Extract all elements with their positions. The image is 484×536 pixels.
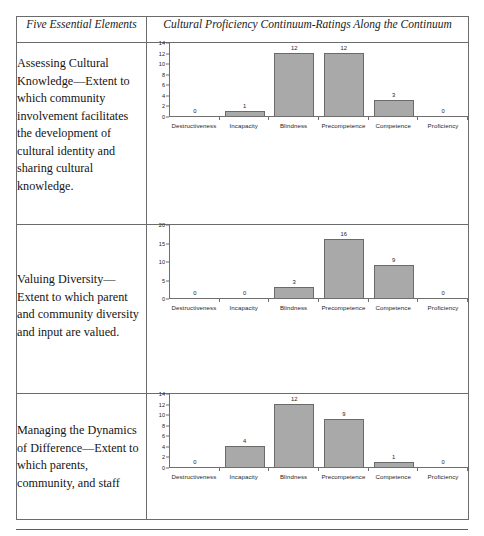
y-axis-tick-label: 4 (162, 93, 165, 99)
x-axis-tick-mark (319, 298, 369, 302)
chart-plot-area: 024681012140412910 (147, 394, 468, 468)
bar-value-label: 1 (392, 454, 395, 461)
table-row: Valuing Diversity—Extent to which parent… (17, 225, 469, 394)
chart-plot-area: 0246810121401121230 (147, 43, 468, 117)
bar-slot: 0 (170, 225, 220, 298)
x-axis-tick-mark (418, 467, 468, 471)
y-axis-tick-label: 2 (162, 103, 165, 109)
y-axis-tick-label: 5 (162, 278, 165, 284)
bar-slot: 0 (170, 394, 220, 467)
y-axis-tick-label: 6 (162, 82, 165, 88)
bar (374, 265, 414, 298)
y-axis-tick-label: 15 (159, 241, 165, 247)
y-axis-tick-label: 0 (162, 296, 165, 302)
x-axis-tick-mark (269, 298, 319, 302)
bar (374, 100, 414, 116)
x-axis-tick-mark (170, 467, 220, 471)
x-axis-labels: DestructivenessIncapacityBlindnessPrecom… (169, 122, 468, 129)
x-axis-category-label: Incapacity (219, 304, 269, 311)
bar-value-label: 0 (442, 459, 445, 466)
bar-series: 0412910 (170, 394, 468, 467)
table-row: Managing the Dynamics of Difference—Exte… (17, 394, 469, 520)
plot-canvas: 0412910 (169, 394, 468, 468)
chart-cell-valuing-diversity: 051015200031690DestructivenessIncapacity… (147, 225, 469, 394)
x-axis-tick-mark (220, 116, 270, 120)
x-axis-tick-marks (170, 116, 468, 120)
bar-value-label: 0 (193, 108, 196, 115)
x-axis-tick-mark (319, 116, 369, 120)
bar-slot: 9 (369, 225, 419, 298)
bar-slot: 9 (319, 394, 369, 467)
bar-chart-assessing-cultural-knowledge: 0246810121401121230DestructivenessIncapa… (147, 43, 468, 129)
page-root: Five Essential Elements Cultural Profici… (0, 0, 484, 536)
bar-chart-managing-dynamics-of-difference: 024681012140412910DestructivenessIncapac… (147, 394, 468, 480)
y-axis-tick-label: 10 (159, 259, 165, 265)
x-axis-category-label: Precompetence (318, 304, 368, 311)
chart-plot-area: 051015200031690 (147, 225, 468, 299)
x-axis-category-label: Destructiveness (169, 473, 219, 480)
x-axis-tick-mark (269, 467, 319, 471)
chart-cell-managing-dynamics-of-difference: 024681012140412910DestructivenessIncapac… (147, 394, 469, 520)
x-axis-category-label: Blindness (269, 122, 319, 129)
bar-value-label: 12 (291, 396, 297, 403)
x-axis-tick-marks (170, 467, 468, 471)
y-axis-tick-label: 10 (159, 61, 165, 67)
bar (324, 419, 364, 467)
bar-value-label: 12 (341, 45, 347, 52)
bar-value-label: 0 (243, 290, 246, 297)
x-axis-tick-mark (369, 298, 419, 302)
bar-value-label: 0 (193, 459, 196, 466)
bar-slot: 1 (220, 43, 270, 116)
bar-slot: 0 (418, 225, 468, 298)
x-axis-labels: DestructivenessIncapacityBlindnessPrecom… (169, 473, 468, 480)
x-axis-tick-marks (170, 298, 468, 302)
x-axis-tick-mark (170, 116, 220, 120)
bar-slot: 12 (269, 394, 319, 467)
x-axis-category-label: Blindness (269, 473, 319, 480)
x-axis-category-label: Incapacity (219, 122, 269, 129)
bar-value-label: 0 (442, 108, 445, 115)
y-axis-tick-label: 0 (162, 465, 165, 471)
element-text-managing-dynamics-of-difference: Managing the Dynamics of Difference—Exte… (17, 394, 147, 520)
header-five-essential-elements: Five Essential Elements (17, 17, 147, 43)
bar-value-label: 4 (243, 438, 246, 445)
bar-value-label: 12 (291, 45, 297, 52)
x-axis-tick-mark (220, 298, 270, 302)
bar-slot: 0 (418, 43, 468, 116)
bar-slot: 4 (220, 394, 270, 467)
y-axis-tick-label: 2 (162, 454, 165, 460)
x-axis-tick-mark (418, 116, 468, 120)
bar (324, 239, 364, 298)
bar-value-label: 16 (341, 231, 347, 238)
x-axis-tick-mark (369, 467, 419, 471)
bar-series: 01121230 (170, 43, 468, 116)
table-row: Assessing Cultural Knowledge—Extent to w… (17, 43, 469, 225)
y-axis-tick-label: 8 (162, 423, 165, 429)
bar-slot: 0 (418, 394, 468, 467)
y-axis-tick-label: 10 (159, 412, 165, 418)
x-axis-category-label: Precompetence (318, 473, 368, 480)
x-axis-category-label: Blindness (269, 304, 319, 311)
bar (225, 446, 265, 467)
x-axis-tick-mark (269, 116, 319, 120)
x-axis-category-label: Competence (368, 122, 418, 129)
x-axis-tick-mark (170, 298, 220, 302)
bar-value-label: 1 (243, 103, 246, 110)
bar-series: 0031690 (170, 225, 468, 298)
y-axis-tick-label: 8 (162, 72, 165, 78)
bar (324, 53, 364, 116)
x-axis-category-label: Destructiveness (169, 304, 219, 311)
table-header-row: Five Essential Elements Cultural Profici… (17, 17, 469, 43)
bar-chart-valuing-diversity: 051015200031690DestructivenessIncapacity… (147, 225, 468, 311)
y-axis-tick-label: 0 (162, 114, 165, 120)
bar-value-label: 0 (193, 290, 196, 297)
bar-slot: 0 (170, 43, 220, 116)
y-axis-tick-label: 12 (159, 402, 165, 408)
x-axis-category-label: Proficiency (418, 473, 468, 480)
bar-slot: 12 (269, 43, 319, 116)
bar-slot: 1 (369, 394, 419, 467)
x-axis-category-label: Precompetence (318, 122, 368, 129)
x-axis-tick-mark (418, 298, 468, 302)
header-continuum-ratings: Cultural Proficiency Continuum-Ratings A… (147, 17, 469, 43)
bar-value-label: 9 (342, 411, 345, 418)
